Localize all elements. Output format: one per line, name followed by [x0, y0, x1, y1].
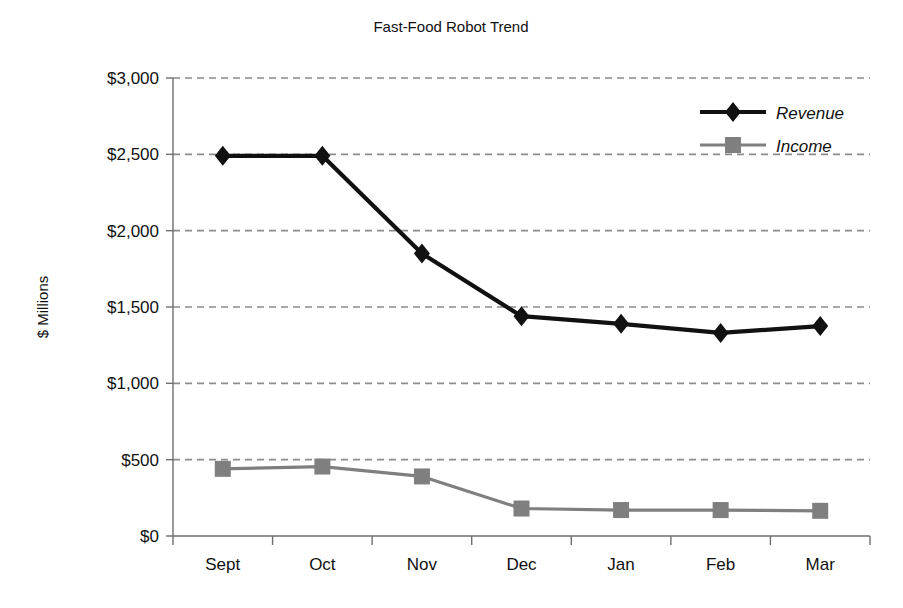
- data-point-marker: [314, 459, 330, 475]
- data-point-marker: [713, 502, 729, 518]
- y-axis-tick-label: $3,000: [107, 69, 159, 88]
- y-axis-title: $ Millions: [34, 276, 51, 339]
- x-axis-category-label: Jan: [607, 555, 634, 574]
- data-point-marker: [215, 461, 231, 477]
- y-axis-tick-label: $500: [121, 451, 159, 470]
- y-axis-tick-label: $1,000: [107, 374, 159, 393]
- data-point-marker: [812, 503, 828, 519]
- data-point-marker: [414, 468, 430, 484]
- y-axis-tick-label: $2,500: [107, 145, 159, 164]
- data-point-marker: [613, 502, 629, 518]
- x-axis-category-label: Feb: [706, 555, 735, 574]
- chart-title: Fast-Food Robot Trend: [373, 18, 528, 35]
- x-axis-category-label: Oct: [309, 555, 336, 574]
- y-axis-tick-label: $2,000: [107, 222, 159, 241]
- y-axis-tick-label: $1,500: [107, 298, 159, 317]
- x-axis-category-label: Nov: [407, 555, 438, 574]
- x-axis-category-label: Dec: [506, 555, 537, 574]
- y-axis-tick-label: $0: [140, 527, 159, 546]
- legend-marker: [725, 137, 741, 153]
- chart-figure: Fast-Food Robot Trend $0$500$1,000$1,500…: [0, 0, 903, 608]
- x-axis-category-label: Mar: [806, 555, 836, 574]
- data-point-marker: [514, 501, 530, 517]
- x-axis-category-label: Sept: [205, 555, 240, 574]
- line-chart: Fast-Food Robot Trend $0$500$1,000$1,500…: [0, 0, 903, 608]
- legend-label: Revenue: [776, 104, 844, 123]
- legend-label: Income: [776, 137, 832, 156]
